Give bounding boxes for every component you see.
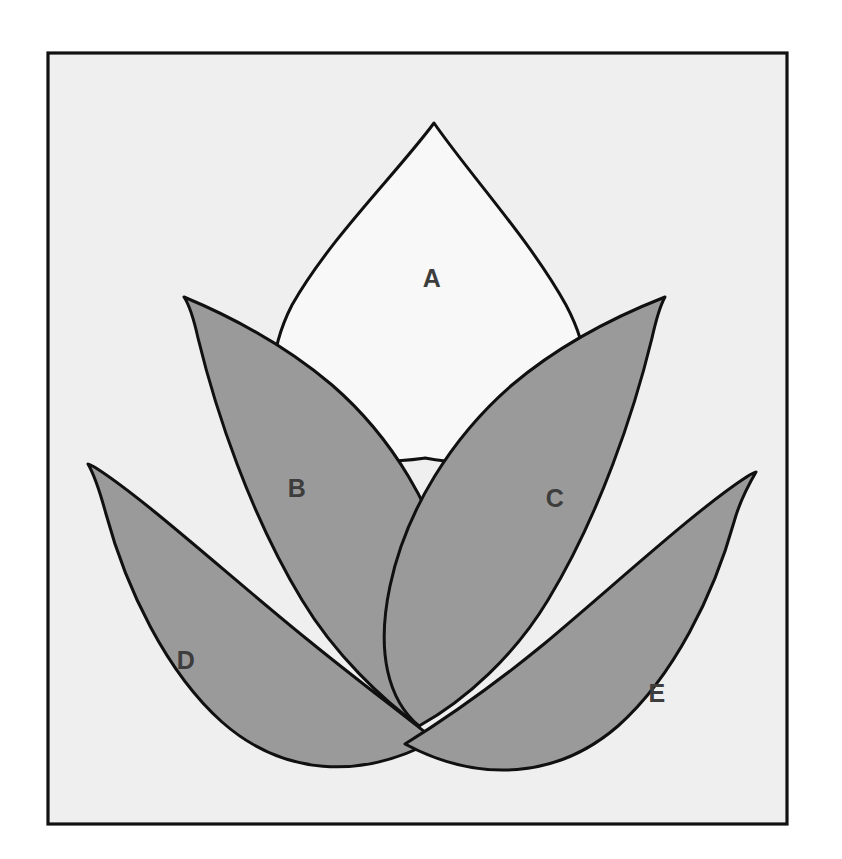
petal-label-b: B [288, 474, 306, 502]
petal-label-e: E [649, 679, 666, 707]
petal-label-d: D [177, 646, 195, 674]
figure-canvas: A B C D E [0, 0, 842, 859]
petal-label-a: A [423, 264, 441, 292]
petal-label-c: C [546, 484, 564, 512]
lotus-diagram-svg: A B C D E [0, 0, 842, 859]
